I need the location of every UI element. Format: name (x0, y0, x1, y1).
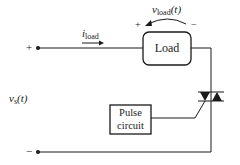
circuit-wiring (0, 0, 240, 165)
load-current-subscript: load (85, 32, 99, 41)
triac-down-triangle-icon (200, 92, 210, 101)
source-minus-sign: − (26, 146, 32, 157)
gate-wire (151, 101, 205, 118)
load-voltage-subscript: load (157, 8, 171, 17)
pulse-box-line2: circuit (110, 121, 151, 132)
pulse-box-line1: Pulse (110, 108, 151, 119)
load-box-label: Load (143, 42, 191, 54)
vload-arrowhead-icon (145, 20, 152, 26)
load-voltage-plus: + (135, 20, 141, 30)
vload-arrow-arc (148, 19, 186, 24)
source-voltage-label: vs(t) (9, 93, 27, 104)
circuit-diagram: + − vs(t) iload vload(t) + − Load Pulse … (0, 0, 240, 165)
source-plus-sign: + (26, 42, 32, 53)
minus-terminal-icon (36, 150, 40, 154)
triac-up-triangle-icon (212, 92, 222, 101)
load-voltage-minus: − (191, 20, 197, 30)
source-voltage-subscript: s (14, 97, 17, 106)
plus-terminal-icon (36, 46, 40, 50)
load-voltage-label: vload(t) (152, 4, 181, 15)
load-current-label: iload (82, 28, 99, 39)
source-voltage-arg: (t) (17, 92, 27, 104)
load-voltage-arg: (t) (171, 3, 181, 15)
iload-arrowhead-icon (99, 41, 104, 46)
